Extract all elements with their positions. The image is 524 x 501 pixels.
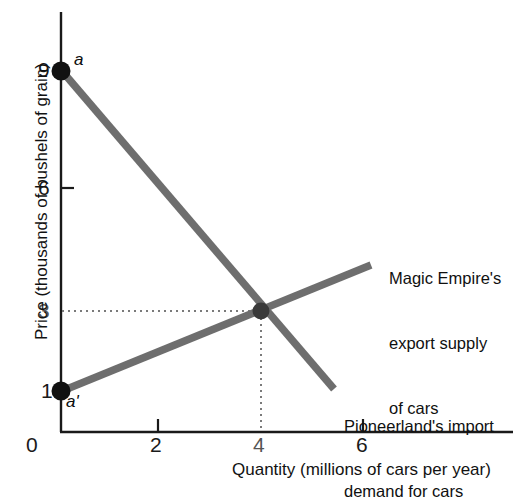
y-tick-label-1: 1 xyxy=(41,379,53,404)
supply-line xyxy=(62,265,371,391)
demand-annotation-line-1: Pioneerland's import xyxy=(344,416,494,438)
demand-curve-annotation: Pioneerland's import demand for cars xyxy=(344,372,494,501)
y-axis-title: Price (thousands of bushels of grain) xyxy=(32,80,52,340)
data-point-equilibrium xyxy=(253,303,270,320)
x-tick-label-0: 0 xyxy=(26,433,38,458)
supply-annotation-line-2: export supply xyxy=(389,333,501,355)
demand-annotation-line-2: demand for cars xyxy=(344,481,494,501)
point-label-a-prime: a' xyxy=(66,392,79,412)
x-tick-label-4: 4 xyxy=(253,433,265,458)
supply-annotation-line-1: Magic Empire's xyxy=(389,268,501,290)
point-label-a: a xyxy=(74,50,83,70)
x-tick-label-2: 2 xyxy=(150,433,162,458)
data-point-a xyxy=(52,62,71,81)
demand-line xyxy=(62,71,334,389)
